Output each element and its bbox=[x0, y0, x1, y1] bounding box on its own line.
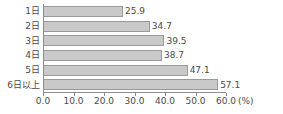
category-label: 5日 bbox=[0, 63, 42, 78]
bar-row: 39.5 bbox=[44, 33, 226, 48]
bar-row: 34.7 bbox=[44, 19, 226, 34]
x-tick-label: 50.0 bbox=[185, 97, 205, 106]
bar bbox=[44, 65, 188, 76]
category-label: 3日 bbox=[0, 34, 42, 49]
bar-row: 57.1 bbox=[44, 77, 226, 92]
bar-row: 25.9 bbox=[44, 4, 226, 19]
x-tick-label: 0.0 bbox=[36, 97, 50, 106]
bar-value-label: 47.1 bbox=[188, 66, 210, 75]
category-axis-labels: 1日2日3日4日5日6日以上 bbox=[0, 4, 42, 93]
x-tick-label: 10.0 bbox=[63, 97, 83, 106]
category-label: 2日 bbox=[0, 19, 42, 34]
bar bbox=[44, 6, 123, 17]
bar-value-label: 25.9 bbox=[123, 7, 145, 16]
category-label: 1日 bbox=[0, 4, 42, 19]
bar-value-label: 34.7 bbox=[150, 22, 172, 31]
axis-unit-label: (%) bbox=[238, 97, 254, 106]
x-tick-label: 60.0 bbox=[216, 97, 236, 106]
bar bbox=[44, 21, 150, 32]
bar-row: 47.1 bbox=[44, 63, 226, 78]
plot-area: 25.934.739.538.747.157.1 bbox=[43, 4, 226, 93]
x-axis: 0.010.020.030.040.050.060.0(%) bbox=[43, 93, 226, 113]
bar-series: 25.934.739.538.747.157.1 bbox=[44, 4, 226, 92]
bar-value-label: 57.1 bbox=[218, 80, 240, 89]
bar-chart: 1日2日3日4日5日6日以上 25.934.739.538.747.157.1 … bbox=[0, 0, 283, 114]
bar bbox=[44, 35, 164, 46]
category-label: 4日 bbox=[0, 48, 42, 63]
bar bbox=[44, 50, 162, 61]
bar-value-label: 38.7 bbox=[162, 51, 184, 60]
bar-row: 38.7 bbox=[44, 48, 226, 63]
bar bbox=[44, 79, 218, 90]
category-label: 6日以上 bbox=[0, 78, 42, 93]
x-tick-label: 40.0 bbox=[155, 97, 175, 106]
bar-value-label: 39.5 bbox=[164, 36, 186, 45]
x-tick-label: 20.0 bbox=[94, 97, 114, 106]
x-tick-label: 30.0 bbox=[124, 97, 144, 106]
